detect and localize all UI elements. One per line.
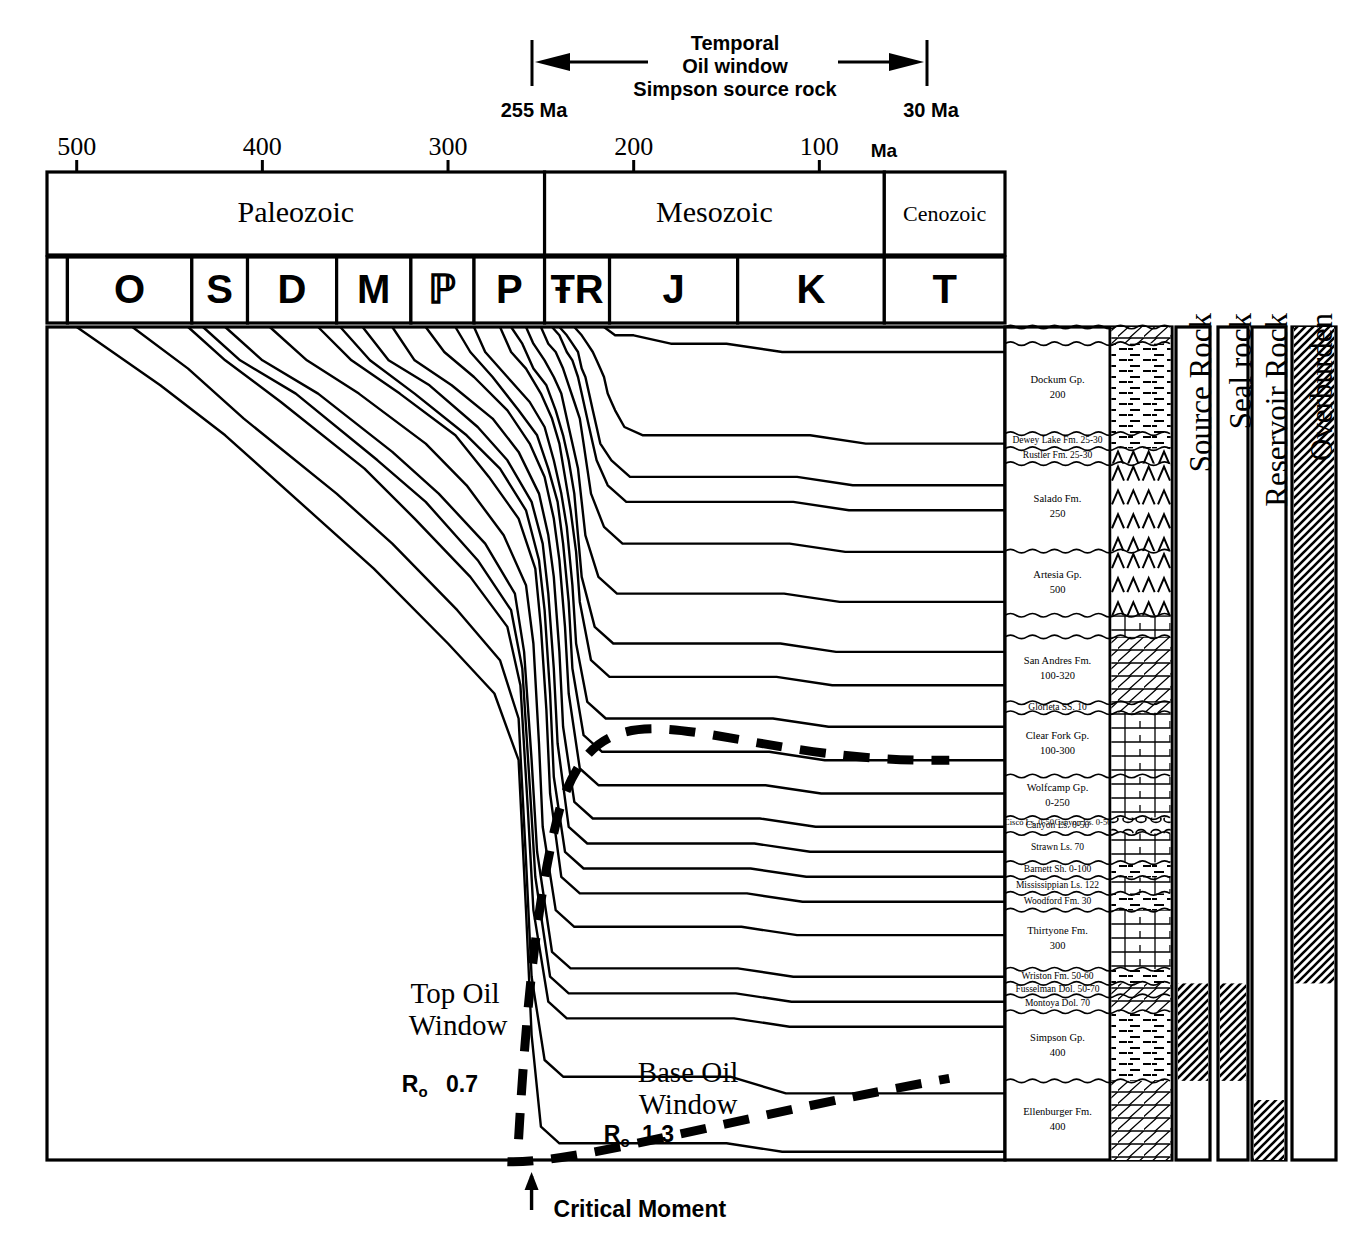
period-label-O: O: [114, 267, 145, 311]
period-label-K: K: [797, 267, 826, 311]
indicator-band-1-0: [1220, 983, 1246, 1080]
strat-litho-4: [1112, 464, 1171, 551]
strat-unit-name-9: Clear Fork Gp.: [1026, 730, 1089, 741]
strat-unit-thickness-9: 100-300: [1040, 745, 1075, 756]
indicator-column-label-3: Overburden: [1304, 313, 1339, 462]
strat-litho-6: [1112, 615, 1171, 637]
axis-tick-label-500: 500: [57, 132, 96, 161]
strat-litho-9: [1112, 713, 1171, 776]
axis-unit-label: Ma: [871, 140, 898, 161]
ro-base-subscript: o: [620, 1133, 629, 1150]
arrow-left-head: [535, 53, 570, 71]
period-label-S: S: [206, 267, 233, 311]
strat-unit-name-10: Wolfcamp Gp.: [1027, 782, 1089, 793]
strat-unit-name-20: Simpson Gp.: [1030, 1032, 1085, 1043]
temporal-label-line1: Temporal: [691, 32, 780, 54]
strat-unit-thickness-7: 100-320: [1040, 670, 1075, 681]
base-oil-window-label-line2: Window: [639, 1088, 738, 1120]
strat-unit-name-15: Woodford Fm. 30: [1024, 896, 1092, 906]
strat-litho-7: [1112, 637, 1171, 703]
axis-tick-label-200: 200: [614, 132, 653, 161]
critical-moment-label: Critical Moment: [554, 1196, 727, 1222]
strat-unit-name-16: Thirtyone Fm.: [1027, 925, 1088, 936]
burial-history-figure: TemporalOil windowSimpson source rock255…: [0, 0, 1367, 1254]
axis-tick-label-300: 300: [429, 132, 468, 161]
era-label-mesozoic: Mesozoic: [656, 195, 773, 228]
top-oil-window-label-line2: Window: [409, 1009, 508, 1041]
strat-unit-name-7: San Andres Fm.: [1024, 655, 1091, 666]
indicator-column-label-2: Reservoir Rock: [1259, 313, 1294, 507]
period-label-T: T: [932, 267, 956, 311]
strat-unit-name-21: Ellenburger Fm.: [1023, 1106, 1092, 1117]
strat-unit-thickness-16: 300: [1050, 940, 1066, 951]
critical-moment-arrow-head: [525, 1172, 539, 1190]
temporal-label-line2: Oil window: [682, 55, 788, 77]
axis-tick-label-100: 100: [800, 132, 839, 161]
strat-unit-name-19: Montoya Dol. 70: [1025, 998, 1090, 1008]
strat-unit-name-1: Dockum Gp.: [1030, 374, 1084, 385]
strat-unit-name-12: Strawn Ls. 70: [1031, 842, 1084, 852]
arrow-right-head: [889, 53, 924, 71]
axis-tick-label-400: 400: [243, 132, 282, 161]
ro-top-subscript: o: [418, 1083, 427, 1100]
strat-unit-name-2: Dewey Lake Fm. 25-30: [1012, 435, 1102, 445]
strat-litho-21: [1112, 1081, 1171, 1160]
indicator-band-2-0: [1254, 1100, 1284, 1160]
ro-base-prefix: R: [604, 1121, 621, 1147]
strat-unit-thickness-4: 250: [1050, 508, 1066, 519]
base-oil-window-label-line1: Base Oil: [638, 1056, 739, 1088]
era-label-cenozoic: Cenozoic: [903, 201, 986, 226]
ro-base-value: 1.3: [642, 1121, 674, 1147]
oil-window-start-age: 255 Ma: [501, 99, 569, 121]
strat-litho-20: [1112, 1012, 1171, 1081]
temporal-label-line3: Simpson source rock: [633, 78, 837, 100]
period-label-J: J: [662, 267, 684, 311]
strat-litho-1: [1112, 344, 1171, 434]
strat-unit-name-14: Mississippian Ls. 122: [1016, 880, 1099, 890]
strat-unit-name-17: Wriston Fm. 50-60: [1021, 971, 1093, 981]
strat-unit-thickness-10: 0-250: [1045, 797, 1070, 808]
period-label-ŦR: ŦR: [550, 267, 603, 311]
oil-window-end-age: 30 Ma: [903, 99, 959, 121]
strat-unit-name-4: Salado Fm.: [1034, 493, 1082, 504]
strat-unit-thickness-21: 400: [1050, 1121, 1066, 1132]
period-label-P: P: [496, 267, 523, 311]
figure-canvas: TemporalOil windowSimpson source rock255…: [0, 0, 1367, 1254]
strat-unit-thickness-5: 500: [1050, 584, 1066, 595]
strat-litho-16: [1112, 910, 1171, 969]
strat-unit-name-18: Fusselman Dol. 50-70: [1015, 984, 1099, 994]
ro-top-prefix: R: [402, 1071, 419, 1097]
strat-unit-name-3: Rustler Fm. 25-30: [1023, 450, 1093, 460]
period-label-D: D: [278, 267, 307, 311]
strat-unit-name-13: Barnett Sh. 0-100: [1024, 864, 1092, 874]
era-label-paleozoic: Paleozoic: [237, 195, 354, 228]
period-label-ℙ: ℙ: [428, 267, 456, 311]
strat-unit-thickness-20: 400: [1050, 1047, 1066, 1058]
strat-litho-12: [1112, 833, 1171, 862]
top-oil-window-label-line1: Top Oil: [411, 977, 500, 1009]
strat-litho-10: [1112, 776, 1171, 818]
strat-unit-name-cisco: Cisco Ls. 0-50: [1004, 817, 1054, 827]
strat-unit-name-5: Artesia Gp.: [1033, 569, 1081, 580]
period-cell-blank-0: [47, 257, 67, 323]
indicator-column-label-0: Source Rock: [1183, 313, 1218, 473]
strat-unit-thickness-1: 200: [1050, 389, 1066, 400]
ro-top-value: 0.7: [446, 1071, 478, 1097]
period-label-M: M: [357, 267, 390, 311]
strat-unit-name-canyon: Canyon Ls. 0-50: [1055, 817, 1112, 827]
indicator-band-0-0: [1178, 983, 1208, 1080]
